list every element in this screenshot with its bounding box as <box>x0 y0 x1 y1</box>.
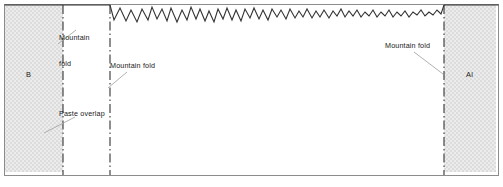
left-tab-panel-label: B <box>26 70 31 79</box>
leader-mountain-fold-right <box>414 52 443 74</box>
annotation-paste-overlap: Paste overlap <box>59 110 105 119</box>
ragged-torn-top-edge <box>110 5 444 22</box>
right-tab-panel-fill <box>444 4 496 172</box>
papercraft-fold-diagram: B Al Mountain fold Mountain fold Paste o… <box>0 0 503 187</box>
left-tab-panel-fill <box>4 4 63 172</box>
annotation-line-1: Mountain <box>59 34 90 43</box>
right-tab-panel-label: Al <box>466 70 473 79</box>
leader-mountain-fold-inner-left <box>108 72 127 88</box>
annotation-line-2: fold <box>59 60 90 69</box>
annotation-mountain-fold-top-left: Mountain fold <box>59 17 90 86</box>
annotation-mountain-fold-inner-left: Mountain fold <box>110 62 155 71</box>
annotation-mountain-fold-right: Mountain fold <box>385 42 430 51</box>
